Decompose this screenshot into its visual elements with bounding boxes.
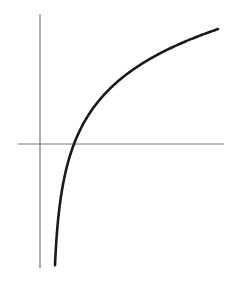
log-curve — [55, 29, 218, 265]
chart-container — [0, 0, 237, 283]
log-chart — [0, 0, 237, 283]
